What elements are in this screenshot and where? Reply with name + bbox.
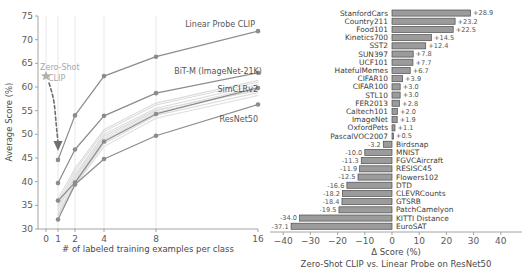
- value-label-PatchCamelyon: -19.5: [319, 206, 336, 214]
- bar-Caltech101: [392, 108, 397, 114]
- value-label-SST2: +12.4: [428, 42, 448, 50]
- x-tick-30: 30: [468, 236, 480, 246]
- y-tick-35: 35: [22, 200, 33, 210]
- bar-FER2013: [392, 100, 400, 106]
- data-point-BiT-M (ImageNet-21K)-1: [56, 181, 61, 186]
- left-line-chart-panel: 30354045505560657075 0124816 Zero-Shot C…: [0, 0, 264, 273]
- value-label-PascalVOC2007: +0.5: [396, 132, 412, 140]
- bar-HatefulMemes: [392, 67, 410, 73]
- value-label-CIFAR10: +3.9: [405, 75, 421, 83]
- right-subtitle: Zero-Shot CLIP vs. Linear Probe on ResNe…: [301, 259, 492, 269]
- bar-CIFAR10: [392, 76, 403, 82]
- data-point-SimCLRv2-4: [102, 139, 107, 144]
- right-chart-svg: StanfordCarsCountry211Food101Kinetics700…: [264, 0, 528, 273]
- category-label-EuroSAT: EuroSAT: [396, 222, 427, 231]
- value-label-Kinetics700: +14.5: [434, 34, 454, 42]
- value-label-MNIST: -10.0: [345, 149, 362, 157]
- left-faint-series: [58, 80, 258, 215]
- figure-root: 30354045505560657075 0124816 Zero-Shot C…: [0, 0, 528, 273]
- value-label-CIFAR100: +3.0: [403, 83, 419, 91]
- category-label-PascalVOC2007: PascalVOC2007: [330, 132, 388, 141]
- data-point-SimCLRv2-1: [56, 198, 61, 203]
- bar-KITTI-Distance: [300, 215, 392, 221]
- left-y-axis-title: Average Score (%): [4, 83, 14, 162]
- value-label-CLEVRCounts: -18.2: [323, 190, 340, 198]
- x-tick--20: −20: [328, 236, 347, 246]
- bar-CLEVRCounts: [342, 190, 392, 196]
- bar-STL10: [392, 92, 400, 98]
- bar-SUN397: [392, 51, 413, 57]
- bar-OxfordPets: [392, 125, 395, 131]
- data-point-BiT-M (ImageNet-21K)-8: [154, 91, 159, 96]
- value-label-FGVCAircraft: -11.3: [342, 157, 359, 165]
- right-x-axis-title: Δ Score (%): [371, 247, 421, 257]
- x-tick-0: 0: [43, 234, 49, 244]
- x-tick-0: 0: [389, 236, 395, 246]
- x-tick-20: 20: [441, 236, 453, 246]
- data-point-Linear Probe CLIP-16: [256, 29, 261, 34]
- data-point-ResNet50-2: [73, 182, 78, 187]
- y-tick-70: 70: [22, 35, 34, 45]
- value-label-Flowers102: -12.5: [338, 173, 355, 181]
- bar-RESISC45: [360, 166, 392, 172]
- bar-FGVCAircraft: [361, 158, 392, 164]
- y-tick-60: 60: [22, 82, 34, 92]
- value-label-DTD: -16.6: [327, 182, 344, 190]
- value-label-Caltech101: +2.0: [400, 108, 416, 116]
- series-label-Linear Probe CLIP: Linear Probe CLIP: [185, 20, 255, 29]
- left-x-axis-title: # of labeled training examples per class: [62, 244, 234, 254]
- value-label-RESISC45: -11.9: [340, 165, 357, 173]
- value-label-KITTI-Distance: -34.0: [280, 214, 297, 222]
- x-tick--40: −40: [274, 236, 293, 246]
- bar-ImageNet: [392, 117, 397, 123]
- bar-GTSRB: [342, 199, 392, 205]
- y-tick-75: 75: [22, 11, 33, 21]
- data-point-Linear Probe CLIP-1: [56, 158, 61, 163]
- bar-StanfordCars: [392, 10, 471, 16]
- data-point-Linear Probe CLIP-8: [154, 54, 159, 59]
- bar-Flowers102: [358, 174, 392, 180]
- bar-Kinetics700: [392, 35, 431, 41]
- series-line-other-2: [58, 87, 258, 209]
- value-label-HatefulMemes: +6.7: [413, 67, 429, 75]
- right-x-tick-labels: −40−30−20−10010203040: [274, 232, 507, 246]
- value-label-UCF101: +7.7: [415, 59, 431, 67]
- data-point-Linear Probe CLIP-4: [102, 74, 107, 79]
- left-y-tick-labels: 30354045505560657075: [22, 11, 38, 234]
- value-label-GTSRB: -18.4: [322, 198, 339, 206]
- bar-UCF101: [392, 59, 413, 65]
- data-point-Linear Probe CLIP-2: [73, 113, 78, 118]
- bar-SST2: [392, 43, 426, 49]
- data-point-ResNet50-16: [256, 102, 261, 107]
- x-tick--30: −30: [301, 236, 320, 246]
- value-label-StanfordCars: +28.9: [473, 9, 493, 17]
- bar-EuroSAT: [291, 223, 392, 229]
- y-tick-50: 50: [22, 129, 34, 139]
- value-label-SUN397: +7.8: [416, 50, 432, 58]
- bar-Country211: [392, 18, 455, 24]
- x-tick-8: 8: [153, 234, 159, 244]
- bar-CIFAR100: [392, 84, 400, 90]
- x-tick-10: 10: [413, 236, 425, 246]
- x-tick-4: 4: [101, 234, 107, 244]
- left-chart-svg: 30354045505560657075 0124816 Zero-Shot C…: [0, 0, 264, 273]
- value-label-Country211: +23.2: [458, 18, 478, 26]
- y-tick-55: 55: [22, 106, 33, 116]
- y-tick-30: 30: [22, 224, 34, 234]
- x-tick-1: 1: [55, 234, 61, 244]
- value-label-EuroSAT: -37.1: [272, 223, 289, 231]
- data-point-ResNet50-8: [154, 133, 159, 138]
- bar-DTD: [347, 182, 392, 188]
- y-tick-45: 45: [22, 153, 33, 163]
- series-label-ResNet50: ResNet50: [219, 115, 258, 124]
- data-point-BiT-M (ImageNet-21K)-4: [102, 114, 107, 119]
- left-data-points: [56, 29, 261, 222]
- value-label-ImageNet: +1.9: [400, 116, 416, 124]
- x-tick-16: 16: [252, 234, 264, 244]
- left-x-tick-labels: 0124816: [43, 229, 264, 244]
- bar-Food101: [392, 26, 453, 32]
- right-bar-chart-panel: StanfordCarsCountry211Food101Kinetics700…: [264, 0, 528, 273]
- x-tick-40: 40: [495, 236, 507, 246]
- bar-MNIST: [365, 149, 392, 155]
- zero-shot-label-line2: CLIP: [48, 74, 65, 83]
